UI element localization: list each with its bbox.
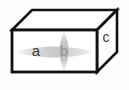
cuboid-svg: Rectangular cuboid with labelled dimensi… (0, 0, 129, 90)
label-c: c (103, 29, 110, 45)
label-a: a (32, 42, 41, 59)
label-b: b (60, 42, 68, 59)
cuboid-figure: Rectangular cuboid with labelled dimensi… (0, 0, 129, 90)
